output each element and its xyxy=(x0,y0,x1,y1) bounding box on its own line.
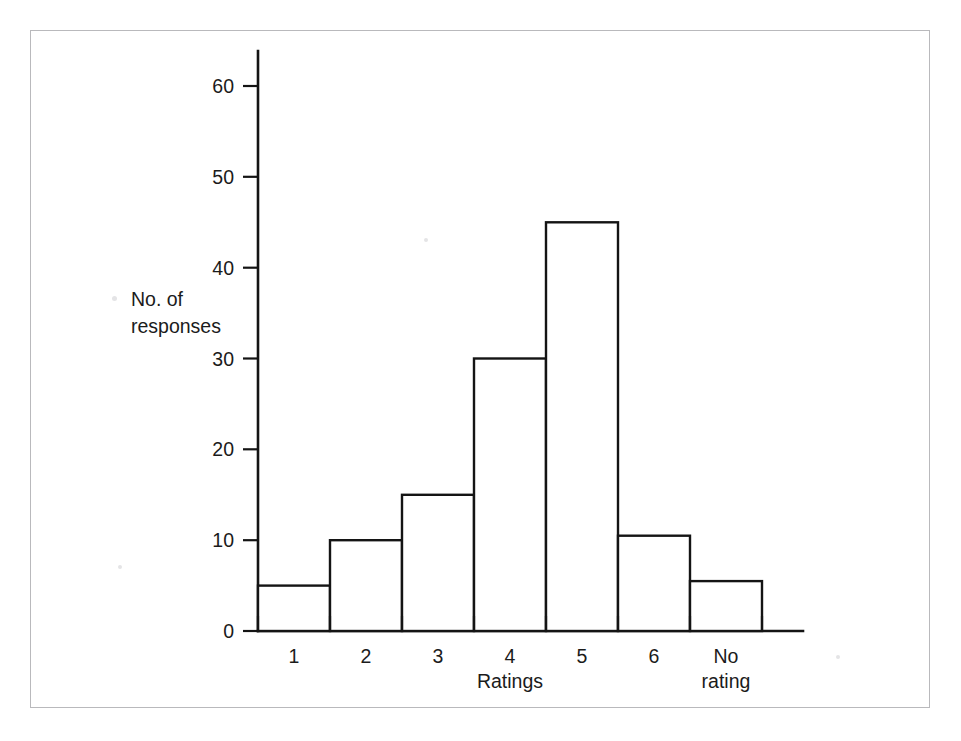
y-axis-label-line-1: No. of xyxy=(131,288,184,310)
bar-4 xyxy=(474,359,546,632)
x-tick-label-no-rating-line-1: No xyxy=(714,645,739,667)
bar-3 xyxy=(402,495,474,631)
bar-no-rating xyxy=(690,581,762,631)
bar-chart: 0 10 20 30 40 50 60 No. of responses xyxy=(31,31,931,709)
bar-5 xyxy=(546,222,618,631)
x-axis-title: Ratings xyxy=(477,670,543,692)
y-tick-label-60: 60 xyxy=(212,75,234,97)
x-tick-label-2: 2 xyxy=(361,645,372,667)
scan-artifact xyxy=(112,296,117,301)
x-tick-label-1: 1 xyxy=(289,645,300,667)
chart-canvas: 0 10 20 30 40 50 60 No. of responses xyxy=(31,31,931,709)
bar-6 xyxy=(618,536,690,631)
x-tick-label-3: 3 xyxy=(433,645,444,667)
y-tick-label-50: 50 xyxy=(212,166,234,188)
y-tick-marks xyxy=(243,86,258,631)
y-tick-label-10: 10 xyxy=(212,529,234,551)
y-tick-label-20: 20 xyxy=(212,438,234,460)
y-tick-labels: 0 10 20 30 40 50 60 xyxy=(212,75,234,642)
bar-2 xyxy=(330,540,402,631)
y-tick-label-40: 40 xyxy=(212,257,234,279)
scan-artifact xyxy=(118,565,122,569)
y-axis-label-line-2: responses xyxy=(131,315,221,337)
scan-artifact xyxy=(424,238,428,242)
y-tick-label-0: 0 xyxy=(223,620,234,642)
figure-frame: 0 10 20 30 40 50 60 No. of responses xyxy=(30,30,930,708)
bar-series xyxy=(258,222,762,631)
x-tick-label-4: 4 xyxy=(505,645,516,667)
x-tick-label-no-rating-line-2: rating xyxy=(702,670,751,692)
x-tick-label-6: 6 xyxy=(649,645,660,667)
bar-1 xyxy=(258,586,330,631)
y-axis-label: No. of responses xyxy=(131,288,221,337)
scan-artifact xyxy=(836,655,840,659)
y-tick-label-30: 30 xyxy=(212,348,234,370)
x-tick-label-5: 5 xyxy=(577,645,588,667)
